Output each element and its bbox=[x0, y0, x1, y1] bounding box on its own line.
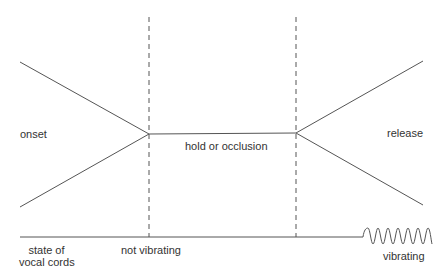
onset-upper-line bbox=[20, 62, 149, 134]
diagram-canvas bbox=[0, 0, 446, 278]
vocal-cords-label: state of vocal cords bbox=[19, 244, 74, 268]
vocal-cords-label-line1: state of bbox=[19, 244, 74, 256]
not-vibrating-label: not vibrating bbox=[121, 244, 181, 256]
release-label: release bbox=[387, 127, 423, 139]
release-upper-line bbox=[296, 61, 423, 133]
vibrating-label: vibrating bbox=[383, 250, 425, 262]
vocal-cords-label-line2: vocal cords bbox=[19, 256, 74, 268]
vibrating-wave bbox=[363, 228, 432, 244]
onset-label: onset bbox=[20, 128, 47, 140]
articulation-phase-diagram: onset hold or occlusion release state of… bbox=[0, 0, 446, 278]
onset-lower-line bbox=[20, 134, 149, 207]
release-lower-line bbox=[296, 133, 423, 205]
hold-line bbox=[149, 133, 296, 134]
hold-label: hold or occlusion bbox=[185, 140, 268, 152]
